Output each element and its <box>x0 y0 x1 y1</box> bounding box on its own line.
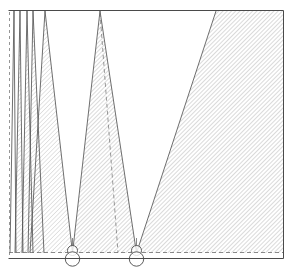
right-pivot[interactable] <box>129 246 143 267</box>
left-pivot[interactable] <box>65 246 79 267</box>
figure-plate <box>0 0 294 279</box>
ray-shadow-diagram <box>0 0 294 279</box>
